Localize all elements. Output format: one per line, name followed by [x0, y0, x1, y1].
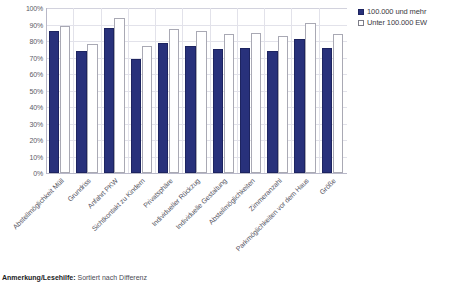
bar-group[interactable] — [237, 8, 264, 173]
y-axis-tick-label: 100% — [26, 5, 43, 12]
category-separator — [128, 8, 129, 173]
category-separator — [101, 8, 102, 173]
bar-group[interactable] — [101, 8, 128, 173]
bar-light[interactable] — [169, 29, 179, 173]
bar-dark[interactable] — [185, 46, 195, 173]
bar-light[interactable] — [196, 31, 206, 173]
bar-light[interactable] — [60, 26, 70, 173]
footnote-text: Sortiert nach Differenz — [76, 274, 147, 281]
x-axis-tick-label: Individueller Rückzug — [55, 177, 201, 286]
chart-legend: 100.000 und mehrUnter 100.000 EW — [358, 7, 452, 29]
y-axis-tick-label: 40% — [30, 104, 43, 111]
y-axis-tick-label: 60% — [30, 71, 43, 78]
x-axis-tick-label: Privatsphäre — [27, 177, 173, 286]
chart-footnote: Anmerkung/Lesehilfe: Sortiert nach Diffe… — [2, 274, 147, 281]
legend-label: 100.000 und mehr — [367, 7, 426, 16]
bar-group[interactable] — [128, 8, 155, 173]
bar-group[interactable] — [291, 8, 318, 173]
x-axis-tick-label: Parkmöglichkeiten vor dem Haus — [164, 177, 310, 286]
y-axis-tick-label: 10% — [30, 153, 43, 160]
bar-group[interactable] — [264, 8, 291, 173]
footnote-label: Anmerkung/Lesehilfe: — [2, 274, 76, 281]
x-axis-tick-label: Sichtkontakt zu Kindern — [0, 177, 146, 286]
category-separator — [264, 8, 265, 173]
x-axis-tick-label: Anfahrt PKW — [0, 177, 119, 286]
bar-light[interactable] — [305, 23, 315, 173]
bar-dark[interactable] — [104, 28, 114, 173]
bar-light[interactable] — [142, 46, 152, 173]
x-axis-tick-label: Zimmeranzahl — [136, 177, 282, 286]
bar-light[interactable] — [251, 33, 261, 173]
x-axis-tick-label: Abstellmöglichkeiten — [109, 177, 255, 286]
bar-dark[interactable] — [131, 59, 141, 173]
category-separator — [291, 8, 292, 173]
bar-light[interactable] — [114, 18, 124, 173]
x-axis-tick-label: Grundriss — [0, 177, 92, 286]
x-axis-tick-label: Individuelle Gestaltung — [82, 177, 228, 286]
x-axis-tick-label: Abstellmöglichkeit Müll — [0, 177, 65, 286]
legend-swatch-icon — [358, 20, 364, 26]
y-axis-tick-label: 70% — [30, 54, 43, 61]
y-axis-tick-label: 30% — [30, 120, 43, 127]
bar-light[interactable] — [224, 34, 234, 173]
category-separator — [237, 8, 238, 173]
bars-layer — [46, 8, 346, 173]
legend-label: Unter 100.000 EW — [367, 18, 427, 27]
bar-dark[interactable] — [294, 39, 304, 173]
bar-dark[interactable] — [322, 48, 332, 173]
bar-chart: 100%90%80%70%60%50%40%30%20%10%0% Abstel… — [0, 0, 454, 286]
y-axis-tick-label: 90% — [30, 21, 43, 28]
legend-item[interactable]: Unter 100.000 EW — [358, 18, 452, 27]
category-separator — [182, 8, 183, 173]
bar-dark[interactable] — [240, 48, 250, 173]
bar-dark[interactable] — [76, 51, 86, 173]
legend-swatch-icon — [358, 9, 364, 15]
bar-group[interactable] — [319, 8, 346, 173]
bar-group[interactable] — [46, 8, 73, 173]
bar-dark[interactable] — [213, 49, 223, 173]
y-axis-tick-label: 80% — [30, 38, 43, 45]
bar-group[interactable] — [155, 8, 182, 173]
legend-item[interactable]: 100.000 und mehr — [358, 7, 452, 16]
bar-dark[interactable] — [158, 43, 168, 173]
y-axis-tick-label: 50% — [30, 87, 43, 94]
bar-dark[interactable] — [49, 31, 59, 173]
bar-group[interactable] — [210, 8, 237, 173]
y-axis-tick-label: 20% — [30, 137, 43, 144]
y-axis-tick-label: 0% — [33, 170, 43, 177]
category-separator — [210, 8, 211, 173]
bar-light[interactable] — [333, 34, 343, 173]
x-axis-tick-label: Größe — [191, 177, 337, 286]
bar-dark[interactable] — [267, 51, 277, 173]
bar-light[interactable] — [87, 44, 97, 173]
bar-group[interactable] — [73, 8, 100, 173]
bar-light[interactable] — [278, 36, 288, 173]
category-separator — [319, 8, 320, 173]
category-separator — [73, 8, 74, 173]
bar-group[interactable] — [182, 8, 209, 173]
category-separator — [155, 8, 156, 173]
